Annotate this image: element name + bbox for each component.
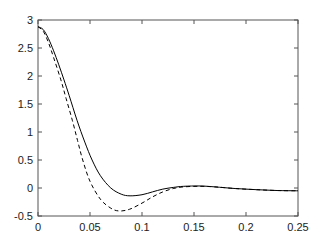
- y-tick-label: 0.5: [18, 154, 33, 166]
- x-tick-label: 0.2: [238, 221, 253, 233]
- y-tick-label: 1.5: [18, 98, 33, 110]
- y-tick-label: -0.5: [14, 210, 33, 222]
- y-tick-label: 3: [27, 14, 33, 26]
- x-tick-label: 0.25: [287, 221, 308, 233]
- x-tick-label: 0: [35, 221, 41, 233]
- y-tick-label: 2: [27, 70, 33, 82]
- x-tick-label: 0.05: [79, 221, 100, 233]
- x-tick-label: 0.15: [183, 221, 204, 233]
- y-tick-label: 2.5: [18, 42, 33, 54]
- plot-area: [38, 20, 298, 216]
- line-chart: 00.050.10.150.20.25 -0.500.511.522.53: [0, 0, 322, 243]
- y-tick-label: 0: [27, 182, 33, 194]
- y-tick-label: 1: [27, 126, 33, 138]
- x-tick-label: 0.1: [134, 221, 149, 233]
